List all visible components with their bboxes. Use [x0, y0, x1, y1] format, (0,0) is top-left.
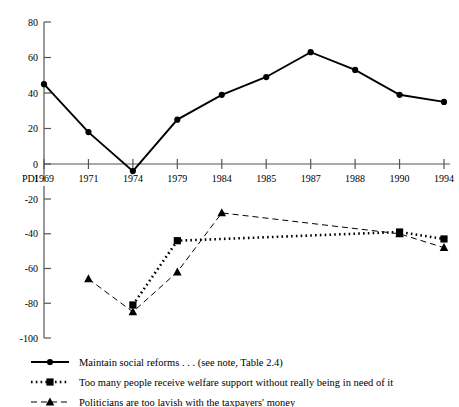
chart-figure: 806040200 -20-40-60-80-100 1969197119741…	[0, 0, 459, 407]
data-point-circle	[352, 67, 358, 73]
data-point-circle	[263, 74, 269, 80]
legend-item-label: Too many people receive welfare support …	[79, 377, 393, 388]
upper-y-tick-label: 40	[28, 88, 38, 99]
x-tick-label: 1971	[78, 173, 98, 184]
data-point-circle	[174, 117, 180, 123]
lower-y-tick-label: -100	[20, 333, 38, 344]
data-point-circle	[441, 99, 447, 105]
chart-background	[0, 0, 459, 407]
data-point-circle	[85, 129, 91, 135]
x-tick-label: 1979	[167, 173, 187, 184]
data-point-circle	[47, 359, 53, 365]
chart-svg: 806040200 -20-40-60-80-100 1969197119741…	[0, 0, 459, 407]
x-tick-label: 1985	[256, 173, 276, 184]
legend-item-label: Politicians are too lavish with the taxp…	[79, 397, 296, 407]
lower-y-tick-label: -80	[25, 298, 38, 309]
legend-item: Too many people receive welfare support …	[31, 377, 393, 388]
data-point-circle	[41, 81, 47, 87]
upper-y-tick-label: 0	[33, 159, 38, 170]
x-tick-label: 1990	[390, 173, 410, 184]
x-tick-label: 1987	[301, 173, 321, 184]
x-tick-label: 1974	[123, 173, 143, 184]
x-axis-label: PDI	[22, 173, 38, 184]
data-point-square	[440, 235, 447, 242]
data-point-circle	[396, 92, 402, 98]
x-tick-label: 1994	[434, 173, 454, 184]
upper-y-tick-label: 20	[28, 123, 38, 134]
data-point-square	[174, 237, 181, 244]
data-point-square	[46, 378, 53, 385]
lower-y-tick-label: -60	[25, 263, 38, 274]
upper-y-tick-label: 60	[28, 52, 38, 63]
data-point-circle	[130, 168, 136, 174]
data-point-circle	[308, 49, 314, 55]
data-point-circle	[219, 92, 225, 98]
x-tick-label: 1984	[212, 173, 232, 184]
lower-y-tick-label: -40	[25, 228, 38, 239]
upper-y-tick-label: 80	[28, 17, 38, 28]
x-tick-label: 1988	[345, 173, 365, 184]
legend-item-label: Maintain social reforms . . . (see note,…	[79, 357, 283, 369]
lower-y-tick-label: -20	[25, 194, 38, 205]
